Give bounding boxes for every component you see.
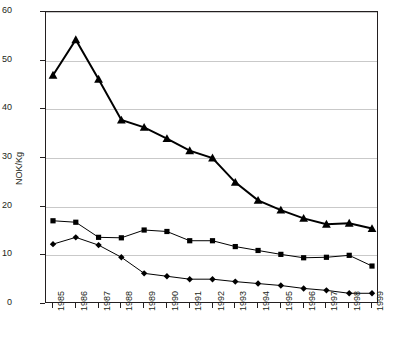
x-axis-tick-label: 1991 xyxy=(193,291,203,311)
x-axis-tick xyxy=(212,303,213,308)
x-axis-tick xyxy=(303,303,304,308)
data-point-marker xyxy=(95,242,101,248)
y-axis-tick-label: 0 xyxy=(0,297,12,307)
data-point-marker xyxy=(164,273,170,279)
x-axis-tick-label: 1987 xyxy=(102,291,112,311)
data-point-marker xyxy=(141,270,147,276)
x-axis-tick xyxy=(189,303,190,308)
data-point-marker xyxy=(324,255,329,260)
x-axis-tick xyxy=(166,303,167,308)
y-axis-tick-label: 10 xyxy=(0,248,12,258)
data-point-marker xyxy=(142,227,147,232)
x-axis-tick-label: 1986 xyxy=(79,291,89,311)
data-point-marker xyxy=(369,263,374,268)
data-point-marker xyxy=(187,238,192,243)
x-axis-tick xyxy=(371,303,372,308)
data-point-marker xyxy=(71,35,80,43)
series-triangle xyxy=(49,35,377,232)
y-axis-tick-label: 40 xyxy=(0,102,12,112)
x-axis-tick xyxy=(75,303,76,308)
x-axis-tick xyxy=(98,303,99,308)
series-container xyxy=(46,12,379,304)
data-point-marker xyxy=(164,229,169,234)
data-point-marker xyxy=(50,218,55,223)
x-axis-tick-label: 1988 xyxy=(124,291,134,311)
data-point-marker xyxy=(233,244,238,249)
y-axis-title: NOK/Kg xyxy=(14,152,24,185)
series-diamond xyxy=(50,234,375,296)
x-axis-tick-label: 1992 xyxy=(216,291,226,311)
x-axis-tick xyxy=(348,303,349,308)
x-axis-tick-label: 1995 xyxy=(284,291,294,311)
data-point-marker xyxy=(73,220,78,225)
data-point-marker xyxy=(209,276,215,282)
y-axis-tick-label: 50 xyxy=(0,54,12,64)
data-point-marker xyxy=(185,146,194,154)
data-point-marker xyxy=(255,248,260,253)
plot-area xyxy=(45,11,378,303)
x-axis-tick-label: 1997 xyxy=(329,291,339,311)
x-axis-tick-label: 1999 xyxy=(375,291,385,311)
data-point-marker xyxy=(347,253,352,258)
data-point-marker xyxy=(278,282,284,288)
x-axis-tick xyxy=(280,303,281,308)
data-point-marker xyxy=(187,276,193,282)
y-axis-tick-label: 60 xyxy=(0,5,12,15)
data-point-marker xyxy=(73,234,79,240)
x-axis-tick-label: 1989 xyxy=(147,291,157,311)
x-axis-tick xyxy=(257,303,258,308)
data-point-marker xyxy=(255,280,261,286)
data-point-marker xyxy=(94,75,103,83)
data-point-marker xyxy=(300,285,306,291)
data-point-marker xyxy=(232,278,238,284)
x-axis-tick-label: 1985 xyxy=(56,291,66,311)
x-axis-tick xyxy=(234,303,235,308)
data-point-marker xyxy=(210,238,215,243)
x-axis-tick-label: 1994 xyxy=(261,291,271,311)
data-point-marker xyxy=(119,235,124,240)
data-point-marker xyxy=(117,116,126,124)
y-axis-tick-label: 20 xyxy=(0,200,12,210)
series-line xyxy=(53,40,372,229)
data-point-marker xyxy=(96,235,101,240)
data-point-marker xyxy=(278,252,283,257)
x-axis-tick-label: 1998 xyxy=(352,291,362,311)
x-axis-tick-label: 1996 xyxy=(307,291,317,311)
data-point-marker xyxy=(118,254,124,260)
x-axis-tick-labels: 1985198619871988198919901991199219931994… xyxy=(45,303,378,348)
line-chart: NOK/Kg 0102030405060 1985198619871988198… xyxy=(0,0,395,348)
x-axis-tick xyxy=(120,303,121,308)
data-point-marker xyxy=(50,241,56,247)
x-axis-tick xyxy=(52,303,53,308)
x-axis-tick xyxy=(143,303,144,308)
x-axis-tick-label: 1990 xyxy=(170,291,180,311)
y-axis-tick-label: 30 xyxy=(0,151,12,161)
x-axis-tick-label: 1993 xyxy=(238,291,248,311)
data-point-marker xyxy=(301,255,306,260)
x-axis-tick xyxy=(325,303,326,308)
